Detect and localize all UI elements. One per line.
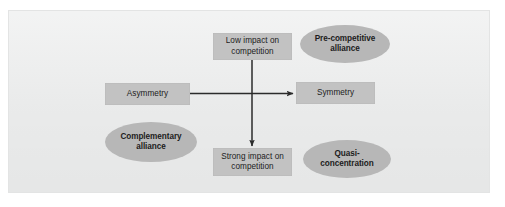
node-low-impact-on-competition[interactable]: Low impact on competition — [213, 33, 292, 60]
node-complementary-label: Complementary alliance — [118, 132, 183, 152]
node-quasi-label: Quasi- concentration — [318, 149, 376, 169]
node-symmetry[interactable]: Symmetry — [296, 82, 375, 104]
node-quasi-concentration[interactable]: Quasi- concentration — [303, 140, 391, 178]
node-strong-impact-on-competition[interactable]: Strong impact on competition — [213, 148, 292, 176]
node-strong-impact-label: Strong impact on competition — [219, 152, 286, 173]
node-low-impact-label: Low impact on competition — [224, 36, 281, 57]
figure-root: Low impact on competition Asymmetry Symm… — [0, 0, 505, 207]
node-complementary-alliance[interactable]: Complementary alliance — [105, 122, 197, 162]
node-asymmetry[interactable]: Asymmetry — [105, 83, 190, 105]
node-pre-competitive-label: Pre-competitive alliance — [313, 34, 378, 54]
node-pre-competitive-alliance[interactable]: Pre-competitive alliance — [300, 25, 390, 63]
node-asymmetry-label: Asymmetry — [125, 89, 170, 100]
node-symmetry-label: Symmetry — [315, 88, 356, 99]
